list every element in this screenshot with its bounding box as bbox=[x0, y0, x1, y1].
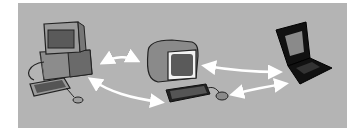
terminal-computer-icon bbox=[147, 40, 228, 102]
network-illustration bbox=[0, 0, 360, 135]
arrow-desktop-terminal-top bbox=[104, 57, 136, 62]
laptop-computer-icon bbox=[276, 22, 332, 84]
arrow-terminal-laptop-top bbox=[206, 66, 278, 72]
arrow-terminal-laptop-bottom bbox=[234, 84, 284, 94]
desktop-computer-icon bbox=[29, 22, 92, 103]
arrow-desktop-terminal-bottom bbox=[92, 80, 160, 102]
